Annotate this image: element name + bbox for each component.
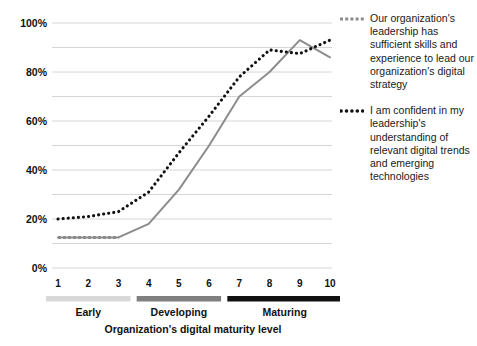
x-tick-label: 7 bbox=[237, 278, 243, 289]
y-axis-tick-labels: 0%20%40%60%80%100% bbox=[20, 17, 48, 274]
x-tick-label: 1 bbox=[55, 278, 61, 289]
x-tick-label: 3 bbox=[116, 278, 122, 289]
gridlines-group bbox=[52, 23, 332, 268]
category-band-labels: EarlyDevelopingMaturing bbox=[75, 306, 306, 318]
x-tick-label: 2 bbox=[85, 278, 91, 289]
y-tick-label: 80% bbox=[26, 66, 48, 78]
series-line-leadership-skills bbox=[58, 40, 330, 237]
legend-item-label: Our organization's leadership has suffic… bbox=[370, 12, 477, 91]
chart-legend: Our organization's leadership has suffic… bbox=[340, 12, 477, 196]
y-tick-label: 0% bbox=[32, 262, 48, 274]
y-tick-label: 20% bbox=[26, 213, 48, 225]
category-band-label: Maturing bbox=[263, 306, 307, 318]
dotted-line-marker bbox=[340, 104, 364, 118]
category-band-label: Early bbox=[75, 306, 101, 318]
category-bands-group bbox=[46, 296, 340, 302]
line-chart-svg: 0%20%40%60%80%100% 12345678910 EarlyDeve… bbox=[0, 0, 340, 346]
x-axis-tick-labels: 12345678910 bbox=[55, 278, 336, 289]
plot-area-wrapper: 0%20%40%60%80%100% 12345678910 EarlyDeve… bbox=[0, 0, 340, 346]
category-band bbox=[227, 296, 340, 302]
x-axis-title: Organization's digital maturity level bbox=[105, 323, 282, 335]
legend-item-leadership-confidence: I am confident in my leadership's unders… bbox=[340, 104, 477, 183]
x-tick-label: 4 bbox=[146, 278, 152, 289]
series-line-leadership-confidence bbox=[58, 40, 330, 219]
y-tick-label: 40% bbox=[26, 164, 48, 176]
dashed-line-marker bbox=[340, 12, 364, 26]
data-series-group bbox=[58, 40, 330, 237]
category-band bbox=[46, 296, 130, 302]
category-band-label: Developing bbox=[151, 306, 208, 318]
y-tick-label: 60% bbox=[26, 115, 48, 127]
legend-item-label: I am confident in my leadership's unders… bbox=[370, 104, 477, 183]
x-tick-label: 10 bbox=[324, 278, 336, 289]
x-tick-label: 6 bbox=[206, 278, 212, 289]
x-tick-label: 9 bbox=[297, 278, 303, 289]
x-tick-label: 5 bbox=[176, 278, 182, 289]
x-tick-label: 8 bbox=[267, 278, 273, 289]
category-band bbox=[137, 296, 221, 302]
chart-figure: 0%20%40%60%80%100% 12345678910 EarlyDeve… bbox=[0, 0, 477, 346]
legend-item-leadership-skills: Our organization's leadership has suffic… bbox=[340, 12, 477, 91]
y-tick-label: 100% bbox=[20, 17, 48, 29]
